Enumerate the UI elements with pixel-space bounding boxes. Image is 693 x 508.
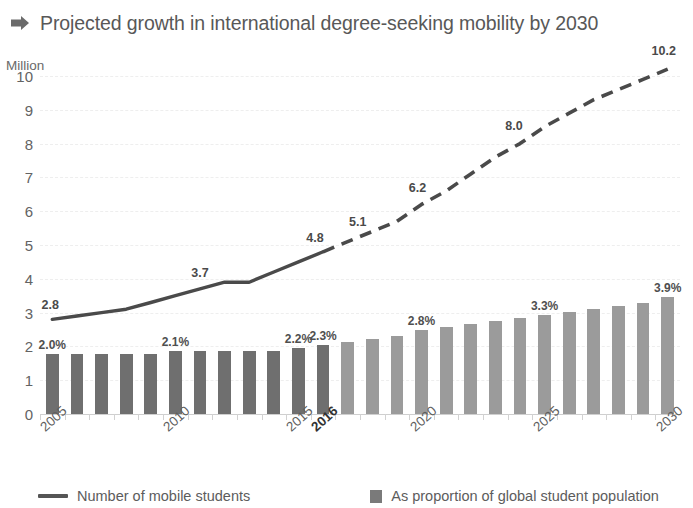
legend-item-proportion[interactable]: As proportion of global student populati… [370, 488, 659, 504]
x-axis-tickmark [360, 414, 361, 420]
bar-2013[interactable] [243, 351, 256, 414]
line-projected-path [323, 69, 668, 252]
x-axis-tickmark [606, 414, 607, 420]
chart-legend: Number of mobile students As proportion … [0, 481, 693, 508]
bar-label-2005: 2.0% [39, 339, 66, 351]
x-axis-tickmark [508, 414, 509, 420]
line-label-2030: 10.2 [652, 45, 676, 58]
bar-label-2010: 2.1% [162, 336, 189, 348]
bar-label-2025: 3.3% [531, 300, 558, 312]
bar-label-2030: 3.9% [654, 282, 681, 294]
legend-line-swatch-icon [38, 494, 68, 498]
bar-2014[interactable] [267, 351, 280, 414]
line-label-2011: 3.7 [191, 267, 208, 280]
bar-2016[interactable] [317, 345, 330, 414]
bar-label-2015: 2.2% [285, 333, 312, 345]
x-axis-tickmark [458, 414, 459, 420]
x-axis-tickmark [114, 414, 115, 420]
y-axis-tick-label: 1 [0, 373, 33, 388]
bar-label-2016: 2.3% [309, 330, 336, 342]
bar-2006[interactable] [71, 354, 84, 414]
bar-2027[interactable] [587, 309, 600, 414]
x-axis-tickmark [631, 414, 632, 420]
legend-item-mobile-students[interactable]: Number of mobile students [38, 488, 250, 504]
bar-2012[interactable] [218, 351, 231, 414]
line-label-2017: 5.1 [349, 216, 366, 229]
x-axis-tickmark [138, 414, 139, 420]
line-label-2016: 4.8 [306, 232, 323, 245]
y-axis-tick-label: 0 [0, 407, 33, 422]
y-axis-tick-label: 10 [0, 69, 33, 84]
bar-2022[interactable] [464, 324, 477, 414]
bar-2011[interactable] [194, 351, 207, 414]
bar-2008[interactable] [120, 354, 133, 414]
bar-2025[interactable] [538, 315, 551, 414]
x-axis-tickmark [262, 414, 263, 420]
bar-2021[interactable] [440, 327, 453, 414]
y-axis-tick-label: 2 [0, 339, 33, 354]
y-axis-tick-label: 7 [0, 170, 33, 185]
line-actual-path [52, 252, 323, 320]
y-axis-tick-label: 9 [0, 102, 33, 117]
y-axis-tick-label: 4 [0, 271, 33, 286]
page-title: Projected growth in international degree… [40, 12, 598, 35]
bar-2018[interactable] [366, 339, 379, 414]
line-series [40, 76, 680, 414]
line-label-2024: 8.0 [505, 120, 522, 133]
bar-2019[interactable] [391, 336, 404, 414]
chart-title-bar: Projected growth in international degree… [0, 6, 693, 40]
legend-label-mobile-students: Number of mobile students [77, 488, 250, 504]
chart-canvas: Million 012345678910 2.83.74.85.16.28.01… [0, 46, 693, 493]
y-axis-tick-label: 3 [0, 305, 33, 320]
x-axis-tickmark [385, 414, 386, 420]
bar-2017[interactable] [341, 342, 354, 414]
x-axis-tickmark [582, 414, 583, 420]
bar-2009[interactable] [144, 354, 157, 414]
legend-label-proportion: As proportion of global student populati… [391, 488, 659, 504]
bar-2030[interactable] [661, 297, 674, 414]
legend-bar-swatch-icon [370, 490, 382, 503]
arrow-right-icon [10, 15, 30, 31]
y-axis-tick-label: 5 [0, 238, 33, 253]
x-axis-tickmark [483, 414, 484, 420]
bar-2020[interactable] [415, 330, 428, 414]
bar-2007[interactable] [95, 354, 108, 414]
bar-2029[interactable] [637, 303, 650, 414]
bar-2026[interactable] [563, 312, 576, 414]
line-label-2005: 2.8 [42, 299, 59, 312]
x-axis-tickmark [237, 414, 238, 420]
bar-2024[interactable] [514, 318, 527, 414]
x-axis-tickmark [89, 414, 90, 420]
y-axis-tick-label: 6 [0, 204, 33, 219]
bar-2023[interactable] [489, 321, 502, 414]
line-label-2020: 6.2 [409, 182, 426, 195]
plot-area: 2.83.74.85.16.28.010.2 2.0%2.1%2.2%2.3%2… [40, 76, 680, 414]
bar-2028[interactable] [612, 306, 625, 414]
bar-label-2020: 2.8% [408, 315, 435, 327]
y-axis-tick-label: 8 [0, 136, 33, 151]
x-axis-tickmark [212, 414, 213, 420]
